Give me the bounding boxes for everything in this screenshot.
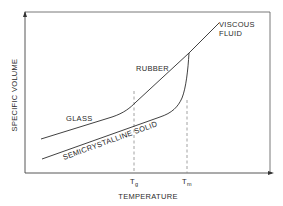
semicrystalline-label: SEMICRYSTALLINE SOLID xyxy=(62,119,159,162)
glass-label: GLASS xyxy=(66,114,93,123)
tm-tick-label: Tm xyxy=(182,177,192,187)
diagram-canvas: GLASS RUBBER VISCOUS FLUID SEMICRYSTALLI… xyxy=(0,0,283,206)
tg-tick-label: Tg xyxy=(130,177,138,187)
viscous-label: VISCOUS xyxy=(219,20,255,29)
fluid-label: FLUID xyxy=(219,29,242,38)
x-axis-arrow-icon xyxy=(268,171,274,175)
y-axis-title: SPECIFIC VOLUME xyxy=(10,59,19,132)
rubber-label: RUBBER xyxy=(136,64,169,73)
x-axis-title: TEMPERATURE xyxy=(118,192,177,201)
